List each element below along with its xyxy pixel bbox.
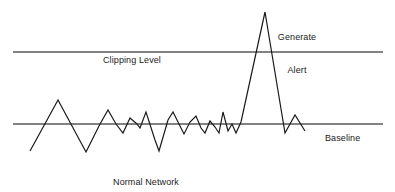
clipping-level-label-text: Clipping Level <box>103 55 161 66</box>
normal-network-activity-label-line1: Normal Network <box>92 177 200 188</box>
normal-network-activity-label: Normal Network Activity <box>92 155 200 192</box>
clipping-level-label: Clipping Level <box>103 33 161 88</box>
generate-alert-label: Generate Alert <box>268 10 326 98</box>
generate-alert-label-line1: Generate <box>268 32 326 43</box>
generate-alert-label-line2: Alert <box>268 65 326 76</box>
network-activity-diagram: Clipping Level Generate Alert Baseline N… <box>0 0 395 192</box>
network-activity-signal-line <box>30 12 305 152</box>
baseline-label-text: Baseline <box>325 133 360 144</box>
baseline-label: Baseline <box>325 111 360 166</box>
